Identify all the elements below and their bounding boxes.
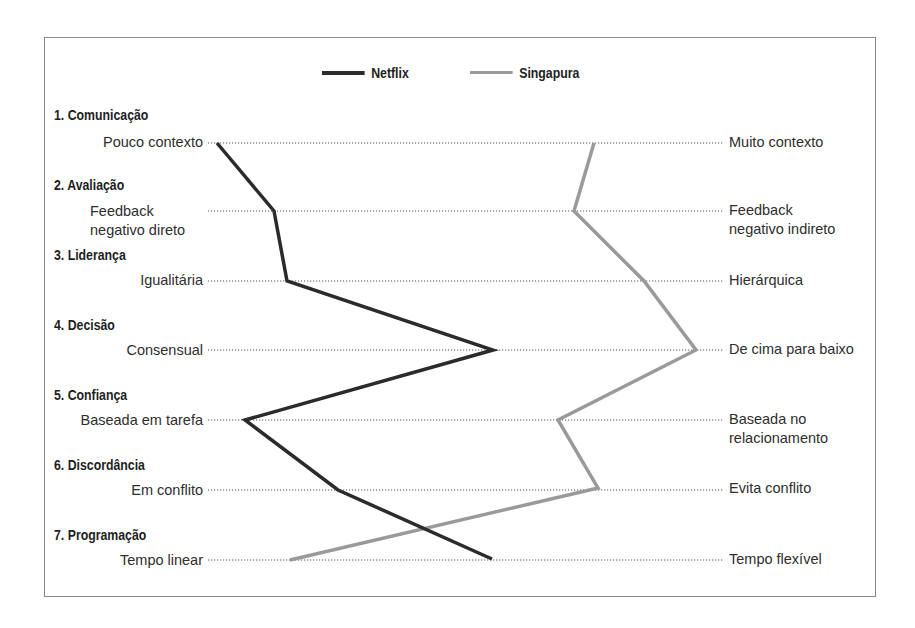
left-label-5: Baseada em tarefa <box>80 410 203 430</box>
right-label-5b: relacionamento <box>729 428 828 448</box>
left-label-3: Igualitária <box>140 270 203 290</box>
category-title-2: 2. Avaliação <box>54 176 124 193</box>
left-label-2a: Feedback <box>90 201 154 221</box>
right-label-2a: Feedback <box>729 200 793 220</box>
category-title-3: 3. Liderança <box>54 246 126 263</box>
right-label-1: Muito contexto <box>729 132 823 152</box>
series-line-netflix <box>217 143 493 559</box>
right-label-6: Evita conflito <box>729 478 811 498</box>
category-title-5: 5. Confiança <box>54 386 127 403</box>
left-label-1: Pouco contexto <box>103 132 203 152</box>
right-label-3: Hierárquica <box>729 270 803 290</box>
category-title-4: 4. Decisão <box>54 316 115 333</box>
right-label-5a: Baseada no <box>729 409 806 429</box>
left-label-4: Consensual <box>126 340 203 360</box>
category-title-1: 1. Comunicação <box>54 106 148 123</box>
right-label-7: Tempo flexível <box>729 549 822 569</box>
category-title-6: 6. Discordância <box>54 456 145 473</box>
category-title-7: 7. Programação <box>54 526 146 543</box>
right-label-4: De cima para baixo <box>729 339 854 359</box>
left-label-2b: negativo direto <box>90 220 185 240</box>
grid-lines <box>208 143 723 560</box>
left-label-6: Em conflito <box>131 480 203 500</box>
left-label-7: Tempo linear <box>120 550 203 570</box>
right-label-2b: negativo indireto <box>729 219 835 239</box>
